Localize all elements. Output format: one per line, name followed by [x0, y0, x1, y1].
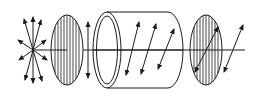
rotated-polarization-arrow-icon: [224, 25, 243, 72]
polarizer: [51, 10, 83, 90]
analyzer: [190, 10, 222, 90]
sample-tube: [93, 12, 183, 88]
polarimeter-diagram: [0, 0, 259, 97]
